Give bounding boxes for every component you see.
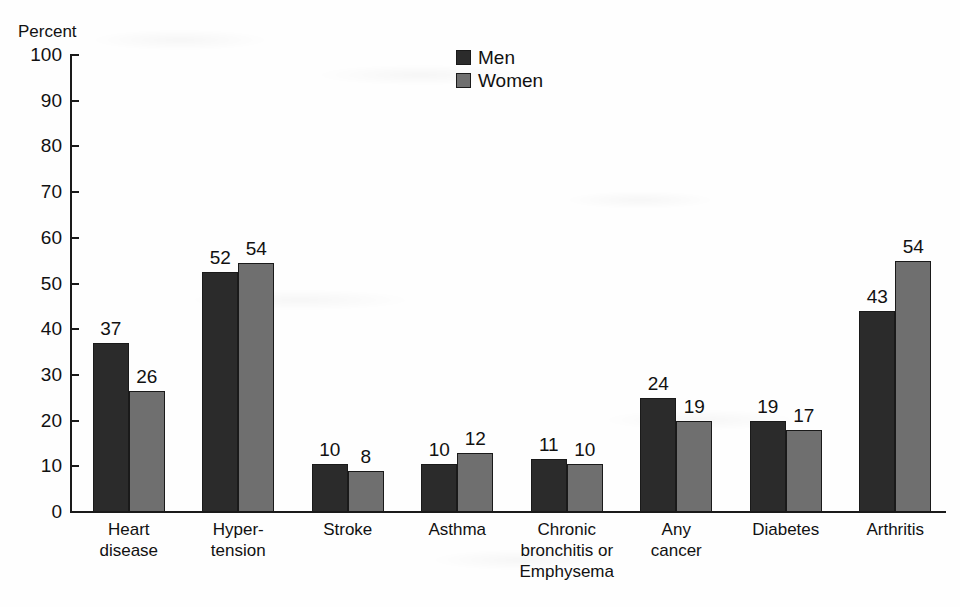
bar-group: 1012 (421, 55, 493, 512)
bar-value-label: 11 (539, 434, 559, 456)
bar-value-label: 10 (574, 439, 595, 461)
bar-value-label: 26 (136, 366, 157, 388)
y-axis-tick-labels: 1009080706050403020100 (16, 0, 62, 607)
bar-value-label: 52 (210, 247, 231, 269)
y-axis-tick-label: 50 (16, 273, 62, 295)
y-axis-tick-mark (70, 420, 79, 422)
x-axis-category-label: Any cancer (651, 519, 702, 561)
y-axis-tick-mark (70, 237, 79, 239)
bar-men[interactable] (421, 464, 457, 512)
y-axis-tick-label: 90 (16, 90, 62, 112)
bar-men[interactable] (202, 272, 238, 512)
y-axis-tick-label: 30 (16, 364, 62, 386)
bar-value-label: 10 (319, 439, 340, 461)
bar-women[interactable] (457, 453, 493, 512)
y-axis-tick-label: 100 (16, 44, 62, 66)
legend-item-women[interactable]: Women (456, 69, 543, 92)
bar-women[interactable] (129, 391, 165, 512)
x-axis-category-label: Hyper- tension (211, 519, 266, 561)
bar-men[interactable] (93, 343, 129, 512)
chart-title-cropped (0, 0, 960, 1)
bar-value-label: 43 (867, 286, 888, 308)
bar-value-label: 8 (360, 446, 371, 468)
bar-women[interactable] (895, 261, 931, 512)
x-axis-category-label: Asthma (428, 519, 486, 540)
bar-chart: Percent 1009080706050403020100 372652541… (0, 0, 960, 607)
legend-swatch-icon (456, 50, 471, 65)
y-axis-tick-label: 10 (16, 455, 62, 477)
bar-men[interactable] (859, 311, 895, 512)
bar-women[interactable] (567, 464, 603, 512)
y-axis-tick-label: 20 (16, 410, 62, 432)
y-axis-tick-label: 70 (16, 181, 62, 203)
y-axis-tick-label: 60 (16, 227, 62, 249)
plot-area: 3726525410810121110241919174354 (70, 55, 946, 512)
legend-swatch-icon (456, 73, 471, 88)
y-axis-tick-mark (70, 145, 79, 147)
y-axis-tick-mark (70, 283, 79, 285)
y-axis-tick-label: 80 (16, 135, 62, 157)
x-axis-category-label: Stroke (323, 519, 372, 540)
bar-value-label: 37 (100, 318, 121, 340)
bar-value-label: 10 (429, 439, 450, 461)
y-axis-tick-label: 0 (16, 501, 62, 523)
y-axis-tick-mark (70, 100, 79, 102)
bar-value-label: 54 (903, 236, 924, 258)
legend-label: Women (478, 70, 543, 92)
x-axis-category-label: Heart disease (99, 519, 158, 561)
x-axis-category-label: Arthritis (866, 519, 924, 540)
bar-group: 2419 (640, 55, 712, 512)
bar-group: 1110 (531, 55, 603, 512)
bar-group: 108 (312, 55, 384, 512)
bar-women[interactable] (348, 471, 384, 512)
bar-men[interactable] (312, 464, 348, 512)
legend-item-men[interactable]: Men (456, 46, 543, 69)
y-axis-tick-label: 40 (16, 318, 62, 340)
y-axis-tick-mark (70, 54, 79, 56)
bar-value-label: 12 (465, 428, 486, 450)
bar-value-label: 19 (757, 396, 778, 418)
bar-women[interactable] (238, 263, 274, 512)
bar-value-label: 54 (246, 238, 267, 260)
bar-group: 4354 (859, 55, 931, 512)
bar-value-label: 24 (648, 373, 669, 395)
bar-men[interactable] (640, 398, 676, 512)
bar-value-label: 17 (793, 405, 814, 427)
y-axis-tick-mark (70, 191, 79, 193)
legend-label: Men (478, 47, 515, 69)
bar-group: 5254 (202, 55, 274, 512)
legend: MenWomen (456, 46, 543, 92)
bar-men[interactable] (531, 459, 567, 512)
x-axis-category-label: Diabetes (752, 519, 819, 540)
y-axis-tick-mark (70, 465, 79, 467)
x-axis-category-label: Chronic bronchitis or Emphysema (520, 519, 614, 582)
bar-group: 1917 (750, 55, 822, 512)
y-axis-tick-mark (70, 328, 79, 330)
y-axis-tick-mark (70, 374, 79, 376)
bar-value-label: 19 (684, 396, 705, 418)
bar-group: 3726 (93, 55, 165, 512)
bar-women[interactable] (786, 430, 822, 512)
bar-women[interactable] (676, 421, 712, 512)
bar-men[interactable] (750, 421, 786, 512)
